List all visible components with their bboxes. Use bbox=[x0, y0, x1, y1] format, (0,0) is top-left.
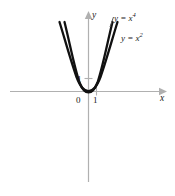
curve-label-quartic: y = x4 bbox=[114, 14, 136, 23]
y-axis-label: y bbox=[92, 11, 96, 21]
y-axis-tick-label-1: 1 bbox=[77, 75, 82, 84]
x-axis-tick-label-1: 1 bbox=[93, 96, 98, 105]
curve-label-quartic-exponent: 4 bbox=[133, 11, 136, 18]
curve-label-quadratic-base: y = x bbox=[121, 33, 140, 43]
plot-canvas bbox=[0, 0, 175, 196]
curve-label-quadratic: y = x2 bbox=[121, 34, 143, 43]
curve-label-quadratic-exponent: 2 bbox=[140, 31, 143, 38]
origin-tick-label: 0 bbox=[76, 96, 81, 105]
curve-label-quartic-base: y = x bbox=[114, 13, 133, 23]
parabola-quartic-figure: y = x4 y = x2 0 1 1 y x bbox=[0, 0, 175, 196]
x-axis-label: x bbox=[160, 94, 164, 104]
